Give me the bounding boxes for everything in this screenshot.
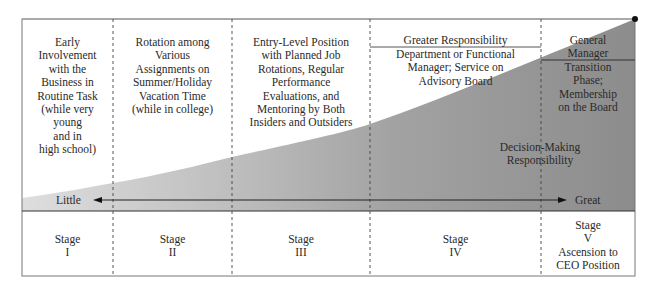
text-line: Stage: [232, 233, 370, 246]
stage-4-header: Greater Responsibility: [370, 34, 541, 47]
text-line: Mentoring by Both: [232, 103, 370, 116]
text-line: with the: [22, 63, 113, 76]
text-line: Rotations, Regular: [232, 63, 370, 76]
text-line: Rotation among: [113, 36, 232, 49]
text-line: Summer/Holiday: [113, 76, 232, 89]
text-line: with Planned Job: [232, 49, 370, 62]
text-line: Transition: [541, 61, 635, 74]
text-line: Stage: [370, 233, 541, 246]
text-line: Ascension to: [541, 246, 635, 259]
apex-dot-icon: [632, 16, 638, 22]
text-line: Department or Functional: [370, 48, 541, 61]
stage-2-description: Rotation among Various Assignments on Su…: [113, 36, 232, 116]
stage-5-header: General Manager: [541, 34, 635, 61]
text-line: Advisory Board: [370, 75, 541, 88]
text-line: Manager: [541, 47, 635, 60]
text-line: CEO Position: [541, 259, 635, 272]
stage-1-label: Stage I: [22, 233, 113, 260]
text-line: Phase;: [541, 74, 635, 87]
text-line: Vacation Time: [113, 90, 232, 103]
text-line: Involvement: [22, 49, 113, 62]
text-line: Stage: [541, 219, 635, 232]
text-line: General: [541, 34, 635, 47]
stage-3-description: Entry-Level Position with Planned Job Ro…: [232, 36, 370, 130]
text-line: Manager; Service on: [370, 61, 541, 74]
stage-5-label: Stage V Ascension to CEO Position: [541, 219, 635, 273]
text-line: III: [232, 246, 370, 259]
text-line: Greater Responsibility: [370, 34, 541, 47]
text-line: Various: [113, 49, 232, 62]
text-line: Membership: [541, 88, 635, 101]
text-line: Business in: [22, 76, 113, 89]
text-line: on the Board: [541, 101, 635, 114]
stage-1-description: Early Involvement with the Business in R…: [22, 36, 113, 157]
text-line: II: [113, 246, 232, 259]
text-line: Insiders and Outsiders: [232, 116, 370, 129]
text-line: Stage: [113, 233, 232, 246]
text-line: I: [22, 246, 113, 259]
ceo-succession-diagram: Early Involvement with the Business in R…: [0, 0, 656, 292]
text-line: and in: [22, 130, 113, 143]
text-line: Routine Task: [22, 90, 113, 103]
text-line: Entry-Level Position: [232, 36, 370, 49]
stage-3-label: Stage III: [232, 233, 370, 260]
text-line: young: [22, 116, 113, 129]
text-line: Evaluations, and: [232, 90, 370, 103]
axis-low-label: Little: [56, 194, 81, 207]
axis-high-label: Great: [575, 194, 601, 207]
text-line: Early: [22, 36, 113, 49]
stage-2-label: Stage II: [113, 233, 232, 260]
stage-4-description: Department or Functional Manager; Servic…: [370, 48, 541, 88]
text-line: Stage: [22, 233, 113, 246]
stage-5-description: Transition Phase; Membership on the Boar…: [541, 61, 635, 115]
text-line: V: [541, 232, 635, 245]
text-line: Responsibility: [480, 154, 600, 167]
text-line: Performance: [232, 76, 370, 89]
text-line: Assignments on: [113, 63, 232, 76]
text-line: (while very: [22, 103, 113, 116]
text-line: IV: [370, 246, 541, 259]
axis-title: Decision-Making Responsibility: [480, 141, 600, 168]
text-line: Decision-Making: [480, 141, 600, 154]
text-line: high school): [22, 143, 113, 156]
stage-4-label: Stage IV: [370, 233, 541, 260]
text-line: (while in college): [113, 103, 232, 116]
